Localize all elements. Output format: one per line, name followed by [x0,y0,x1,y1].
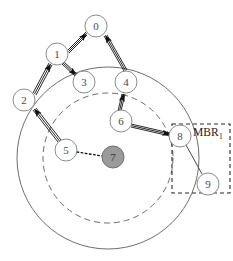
node-3-label: 3 [81,76,87,88]
mbr-label-subscript: 1 [219,132,223,141]
edge-1-3 [62,62,77,76]
mbr-label: MBR [193,126,219,138]
node-7-label: 7 [110,151,116,163]
node-4-label: 4 [123,76,129,88]
node-9[interactable]: 9 [197,173,219,195]
edge-1-0 [68,32,87,53]
node-0-label: 0 [93,20,99,32]
node-7[interactable]: 7 [102,146,124,168]
edge-5-7 [77,152,102,156]
node-5-label: 5 [63,144,69,156]
edge-6-4 [118,94,125,111]
node-1-label: 1 [54,48,60,60]
node-2[interactable]: 2 [13,89,35,111]
node-3[interactable]: 3 [73,71,95,93]
node-6-label: 6 [118,115,124,127]
edge-2-1 [33,63,52,95]
node-1[interactable]: 1 [46,43,68,65]
graph-diagram-svg: MBR 1 [0,0,233,261]
node-8-label: 8 [177,130,183,142]
node-4[interactable]: 4 [115,71,137,93]
edge-4-0 [104,35,127,71]
node-0[interactable]: 0 [85,15,107,37]
edge-8-9 [186,145,202,174]
node-5[interactable]: 5 [55,139,77,161]
node-8[interactable]: 8 [169,125,191,147]
node-2-label: 2 [21,94,27,106]
node-6[interactable]: 6 [110,110,132,132]
diagram-canvas: MBR 1 [0,0,233,261]
node-9-label: 9 [205,178,211,190]
